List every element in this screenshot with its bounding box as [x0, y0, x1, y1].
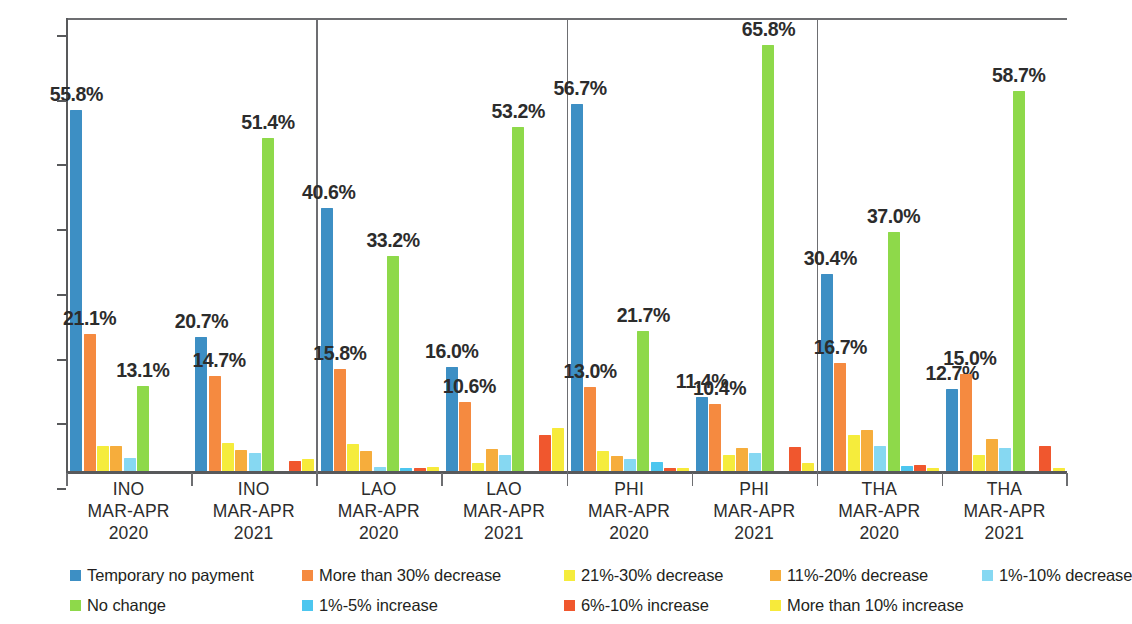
bar[interactable] [789, 447, 801, 471]
bar[interactable] [137, 386, 149, 471]
bar-slot [149, 18, 162, 471]
bar[interactable] [387, 256, 399, 471]
bar-group: 20.7%14.7%51.4% [191, 18, 316, 471]
bar[interactable] [874, 446, 886, 471]
bar[interactable] [960, 374, 972, 471]
bar[interactable] [400, 468, 412, 471]
bar[interactable] [973, 455, 985, 471]
bar[interactable] [834, 363, 846, 471]
bar[interactable] [677, 468, 689, 471]
legend-item[interactable]: Temporary no payment [70, 566, 254, 585]
bar[interactable] [486, 449, 498, 471]
x-label-period: MAR-APR [441, 500, 566, 522]
bar[interactable] [1039, 446, 1051, 471]
x-axis-category-label: INOMAR-APR2021 [191, 478, 316, 544]
x-label-country: PHI [692, 478, 817, 500]
bar[interactable] [110, 446, 122, 471]
bar[interactable] [97, 446, 109, 471]
bar[interactable] [70, 110, 82, 471]
bar[interactable] [427, 467, 439, 471]
bar-slot [775, 18, 788, 471]
bar[interactable] [597, 451, 609, 471]
bar[interactable] [1013, 91, 1025, 471]
bar[interactable] [249, 453, 261, 471]
bar-slot [597, 18, 610, 471]
bar[interactable] [861, 430, 873, 471]
bar[interactable] [821, 274, 833, 471]
legend-label: 6%-10% increase [581, 596, 709, 615]
bar[interactable] [334, 369, 346, 471]
bar-slot: 15.0% [959, 18, 972, 471]
bar-slot [426, 18, 439, 471]
bar[interactable] [802, 463, 814, 471]
bar[interactable] [374, 467, 386, 471]
bar[interactable] [321, 208, 333, 471]
bar[interactable] [512, 127, 524, 471]
x-label-year: 2021 [942, 522, 1067, 544]
bar[interactable] [946, 389, 958, 471]
legend-item[interactable]: 1%-5% increase [302, 596, 438, 615]
bar[interactable] [986, 439, 998, 471]
bar-slot: 30.4% [820, 18, 833, 471]
bar[interactable] [611, 456, 623, 471]
legend-label: 1%-5% increase [319, 596, 438, 615]
bar-slot [874, 18, 887, 471]
bar-slot: 51.4% [261, 18, 274, 471]
bar[interactable] [235, 450, 247, 471]
bar[interactable] [888, 232, 900, 471]
bar[interactable] [762, 45, 774, 471]
bar[interactable] [651, 462, 663, 471]
bar[interactable] [262, 138, 274, 471]
legend-color-swatch [70, 570, 81, 581]
x-label-country: INO [66, 478, 191, 500]
bar[interactable] [124, 458, 136, 471]
legend-item[interactable]: No change [70, 596, 166, 615]
bar[interactable] [539, 435, 551, 471]
bar[interactable] [302, 459, 314, 471]
legend-item[interactable]: 21%-30% decrease [564, 566, 723, 585]
bar[interactable] [472, 463, 484, 471]
legend-label: Temporary no payment [87, 566, 254, 585]
bar[interactable] [749, 453, 761, 471]
bar[interactable] [624, 459, 636, 471]
bar[interactable] [723, 455, 735, 471]
bar[interactable] [1053, 468, 1065, 471]
x-label-period: MAR-APR [567, 500, 692, 522]
bar[interactable] [459, 402, 471, 471]
bar[interactable] [289, 461, 301, 471]
bar[interactable] [709, 404, 721, 471]
bar-slot: 16.7% [834, 18, 847, 471]
bar-slot [788, 18, 801, 471]
bar[interactable] [347, 444, 359, 471]
bar[interactable] [848, 435, 860, 471]
bar-slot [847, 18, 860, 471]
legend-item[interactable]: More than 10% increase [770, 596, 964, 615]
bar[interactable] [499, 455, 511, 471]
bar[interactable] [222, 443, 234, 471]
bar-group: 30.4%16.7%37.0% [817, 18, 942, 471]
bar[interactable] [209, 376, 221, 471]
bar[interactable] [360, 451, 372, 471]
y-axis-tick-mark [57, 164, 66, 166]
legend-color-swatch [70, 600, 81, 611]
legend-item[interactable]: 6%-10% increase [564, 596, 709, 615]
bar[interactable] [552, 428, 564, 471]
bar[interactable] [901, 466, 913, 471]
bar[interactable] [736, 448, 748, 471]
legend-item[interactable]: 1%-10% decrease [982, 566, 1132, 585]
bar[interactable] [999, 448, 1011, 471]
bar[interactable] [84, 334, 96, 471]
legend-item[interactable]: 11%-20% decrease [770, 566, 928, 585]
bar[interactable] [914, 465, 926, 471]
bar[interactable] [414, 468, 426, 471]
plot-area: 55.8%21.1%13.1%20.7%14.7%51.4%40.6%15.8%… [66, 18, 1067, 473]
bar[interactable] [571, 104, 583, 471]
bar[interactable] [637, 331, 649, 471]
bar-slot [485, 18, 498, 471]
bar[interactable] [696, 397, 708, 471]
bar[interactable] [584, 387, 596, 471]
bar[interactable] [927, 468, 939, 471]
bar-slot: 10.6% [458, 18, 471, 471]
legend-item[interactable]: More than 30% decrease [302, 566, 501, 585]
bar[interactable] [664, 468, 676, 471]
